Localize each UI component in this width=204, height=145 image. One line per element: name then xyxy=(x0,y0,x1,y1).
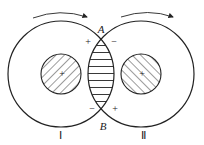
point-label-b: B xyxy=(100,120,107,132)
sign-bottom-left: − xyxy=(89,103,95,114)
sign-right-core: + xyxy=(139,68,145,79)
two-circle-diagram: A B + − − + + + Ⅰ Ⅱ xyxy=(0,0,204,145)
sign-bottom-right: + xyxy=(112,103,118,114)
region-label-left: Ⅰ xyxy=(59,129,62,141)
point-label-a: A xyxy=(97,23,105,35)
rotation-arrow-left xyxy=(33,13,87,18)
sign-top-left: + xyxy=(85,36,91,47)
region-label-right: Ⅱ xyxy=(141,129,146,141)
sign-top-right: − xyxy=(111,36,117,47)
rotation-arrow-right xyxy=(121,13,173,18)
sign-left-core: + xyxy=(59,68,65,79)
